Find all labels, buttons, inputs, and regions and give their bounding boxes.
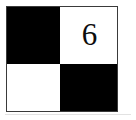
quadrant-bottom-left [7, 64, 60, 111]
quadrant-top-right: 6 [60, 7, 117, 64]
digit-label: 6 [82, 19, 98, 50]
figure-canvas: 6 [0, 0, 136, 120]
quadrant-top-left [7, 7, 60, 64]
baseline-rule [5, 114, 131, 115]
quadrant-bottom-right [60, 64, 117, 111]
checkerboard-square: 6 [6, 6, 118, 112]
